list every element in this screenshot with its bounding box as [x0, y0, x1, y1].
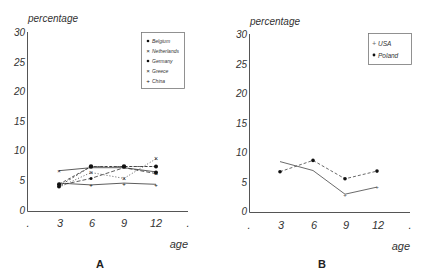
marker — [311, 159, 315, 163]
y-tick: 5 — [241, 177, 247, 188]
y-tick: 5 — [19, 175, 25, 186]
legend-item-china: China — [152, 78, 165, 84]
marker — [278, 170, 282, 174]
x-tick: 6 — [89, 217, 96, 229]
marker — [343, 177, 347, 181]
y-tick: 20 — [13, 86, 26, 97]
x-tick: 9 — [121, 217, 127, 229]
chart-b: percentage 30 25 20 15 10 5 0 . 3 6 9 12… — [235, 16, 412, 270]
marker — [375, 169, 379, 173]
legend-marker-x: × — [146, 68, 150, 74]
legend-item-usa: USA — [378, 40, 391, 47]
marker-x: × — [57, 168, 61, 174]
legend-marker-x: × — [146, 48, 150, 54]
marker-plus: + — [375, 184, 379, 190]
x-tick: 12 — [372, 219, 384, 231]
x-axis-title-a: age — [170, 238, 188, 250]
marker-x: × — [154, 155, 158, 162]
y-tick: 10 — [236, 147, 248, 158]
y-tick: 15 — [236, 118, 248, 129]
legend-b: + USA Poland — [369, 34, 412, 65]
marker — [122, 164, 126, 168]
y-tick: 15 — [14, 116, 26, 127]
y-tick: 25 — [235, 59, 248, 70]
legend-item-germany: Germany — [152, 58, 173, 64]
x-ticks-a: . 3 6 9 12 . — [26, 217, 189, 229]
marker-x: × — [154, 170, 158, 177]
marker-plus: + — [154, 182, 158, 188]
legend-item-netherlands: Netherlands — [152, 48, 179, 54]
figure: percentage 30 25 20 15 10 5 0 . 3 6 9 12… — [0, 0, 425, 277]
legend-marker-dot — [147, 60, 150, 63]
x-tick: . — [26, 217, 29, 229]
y-tick: 30 — [236, 29, 248, 40]
legend-item-greece: Greece — [152, 68, 169, 74]
y-tick: 0 — [19, 205, 25, 216]
marker — [90, 177, 93, 180]
marker-x: × — [89, 169, 93, 176]
marker — [57, 185, 61, 189]
marker — [154, 165, 158, 169]
x-tick: 3 — [57, 217, 64, 229]
x-tick: . — [408, 219, 411, 231]
y-ticks-a: 30 25 20 15 10 5 0 — [13, 27, 26, 216]
legend-item-belgium: Belgium — [152, 38, 170, 44]
marker-plus: + — [343, 192, 347, 198]
y-axis-title-b: percentage — [249, 16, 300, 27]
x-tick: 12 — [150, 217, 162, 229]
series-b — [280, 160, 377, 194]
x-axis-title-b: age — [392, 240, 410, 252]
legend-marker-dot — [147, 40, 150, 43]
legend-marker-dot — [373, 54, 376, 57]
x-tick: 9 — [343, 219, 349, 231]
y-tick: 10 — [14, 145, 26, 156]
series-a — [59, 159, 156, 188]
legend-marker-plus: + — [146, 78, 150, 84]
y-tick: 30 — [14, 27, 26, 38]
marker-plus: + — [89, 182, 93, 188]
marker-plus: + — [122, 181, 126, 187]
y-tick: 0 — [241, 206, 247, 217]
y-ticks-b: 30 25 20 15 10 5 0 — [235, 29, 248, 217]
legend-box — [369, 34, 412, 65]
markers-b: + + — [278, 159, 379, 198]
x-tick: 6 — [311, 219, 318, 231]
legend-a: Belgium × Netherlands Germany × Greece +… — [142, 33, 185, 89]
series-line-china — [59, 183, 156, 185]
chart-a: percentage 30 25 20 15 10 5 0 . 3 6 9 12… — [13, 13, 190, 270]
x-tick: 3 — [278, 219, 285, 231]
series-line-poland — [280, 160, 377, 178]
y-tick: 25 — [13, 57, 26, 68]
y-tick: 20 — [235, 88, 248, 99]
panel-label-b: B — [318, 258, 326, 270]
x-ticks-b: . 3 6 9 12 . — [247, 219, 411, 231]
x-tick: . — [186, 217, 189, 229]
panel-label-a: A — [96, 258, 104, 270]
x-tick: . — [247, 219, 250, 231]
y-axis-title-a: percentage — [27, 13, 78, 24]
legend-marker-plus: + — [372, 40, 376, 47]
legend-item-poland: Poland — [378, 52, 399, 59]
